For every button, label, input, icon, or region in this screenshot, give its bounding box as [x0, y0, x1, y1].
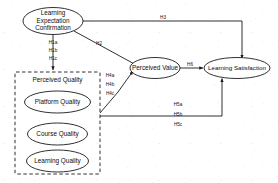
path-label-h3: H3	[160, 15, 166, 20]
path-h5-stem	[100, 79, 222, 117]
path-label-h2: H2	[96, 41, 102, 46]
path-diagram-canvas: Perceived Quality Learning Expectation C…	[0, 0, 278, 183]
path-label-h5b: H5b	[174, 112, 183, 117]
path-h2	[74, 31, 138, 66]
path-label-h5a: H5a	[174, 102, 183, 107]
path-label-h4c: H4c	[106, 91, 115, 96]
node-label-learning-expectation-confirmation-line3: Confirmation	[35, 24, 71, 31]
model-diagram: Perceived Quality Learning Expectation C…	[0, 0, 278, 183]
path-h3	[83, 21, 242, 59]
path-label-h4a: H4a	[106, 73, 115, 78]
node-label-perceived-value: Perceived Value	[132, 64, 179, 71]
node-label-course-quality: Course Quality	[36, 130, 79, 138]
path-label-h4b: H4b	[106, 82, 115, 87]
path-label-h1a: H1a	[49, 40, 58, 45]
path-label-h5c: H5c	[174, 122, 183, 127]
path-label-h1c: H1c	[49, 56, 58, 61]
perceived-quality-group-title: Perceived Quality	[32, 76, 83, 84]
path-label-h6: H6	[187, 62, 193, 67]
node-label-platform-quality: Platform Quality	[35, 98, 81, 106]
node-label-learning-satisfaction: Learning Satisfaction	[208, 64, 266, 71]
node-label-learning-quality: Learning Quality	[34, 157, 81, 165]
path-label-h1b: H1b	[49, 48, 58, 53]
